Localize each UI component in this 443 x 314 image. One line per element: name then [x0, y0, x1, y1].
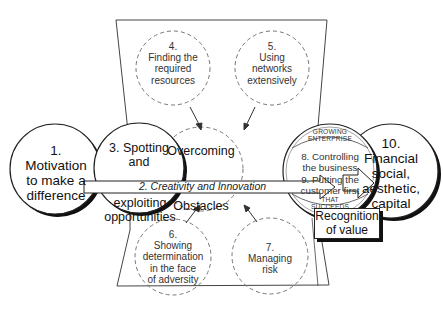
determination-line: determination — [134, 251, 212, 262]
recognition-box: Recognition of value — [314, 208, 380, 239]
networks-number: 5. — [235, 41, 309, 52]
enterprise-arc-line: GROWING — [300, 128, 360, 135]
capital-number: 10. — [350, 136, 432, 151]
determination-label: 6. Showing determination in the face of … — [134, 229, 212, 285]
resources-line: resources — [136, 75, 210, 86]
networks-line: networks — [235, 63, 309, 74]
networks-line: extensively — [235, 75, 309, 86]
overcoming-label: Overcoming — [160, 144, 242, 158]
recognition-line: Recognition — [315, 210, 379, 224]
risk-line: risk — [233, 264, 307, 275]
networks-line: Using — [235, 52, 309, 63]
capital-label: 10. Financial social, aesthetic, capital — [350, 136, 432, 212]
creativity-label: 2. Creativity and Innovation — [90, 181, 315, 193]
motivation-number: 1. — [17, 143, 95, 158]
determination-line: in the face — [134, 263, 212, 274]
motivation-line: difference — [17, 188, 95, 203]
resources-line: Finding the — [136, 52, 210, 63]
capital-line: Financial — [350, 151, 432, 166]
determination-number: 6. — [134, 229, 212, 240]
motivation-label: 1. Motivation to make a difference — [17, 143, 95, 203]
capital-line: aesthetic, — [350, 181, 432, 196]
motivation-line: to make a — [17, 173, 95, 188]
determination-line: Showing — [134, 240, 212, 251]
resources-label: 4. Finding the required resources — [136, 41, 210, 86]
obstacles-label: Obstacles — [160, 199, 242, 213]
resources-line: required — [136, 63, 210, 74]
risk-line: Managing — [233, 253, 307, 264]
motivation-line: Motivation — [17, 158, 95, 173]
resources-number: 4. — [136, 41, 210, 52]
risk-number: 7. — [233, 242, 307, 253]
capital-line: social, — [350, 166, 432, 181]
recognition-line: of value — [315, 224, 379, 238]
determination-line: of adversity — [134, 274, 212, 285]
risk-label: 7. Managing risk — [233, 242, 307, 276]
networks-label: 5. Using networks extensively — [235, 41, 309, 86]
